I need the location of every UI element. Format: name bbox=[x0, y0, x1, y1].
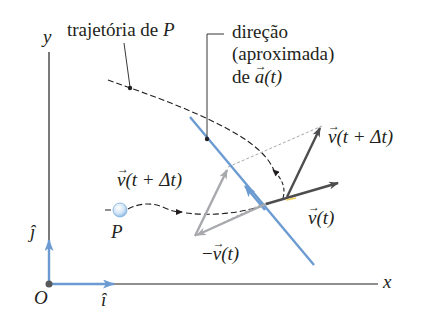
accel-direction-label-3: de a(t) bbox=[232, 67, 282, 87]
v-t-symbol: v bbox=[308, 208, 316, 228]
y-axis-label: y bbox=[43, 27, 51, 47]
v-t-dt-vector bbox=[287, 128, 320, 197]
trajectory-label-var: P bbox=[163, 19, 175, 40]
construction-line-1 bbox=[228, 126, 322, 167]
accel-vector-symbol: a bbox=[255, 67, 265, 87]
accel-label-arg: (t) bbox=[264, 66, 282, 87]
x-axis-label: x bbox=[383, 272, 391, 292]
v-t-vector bbox=[266, 183, 338, 204]
accel-direction-label-1: direção bbox=[232, 22, 288, 42]
acceleration-diagram bbox=[0, 0, 442, 335]
accel-label-prefix: de bbox=[232, 66, 255, 87]
unit-j-label: ĵ bbox=[30, 222, 35, 242]
neg-v-t-prefix: − bbox=[202, 243, 213, 264]
v-t-dt-symbol: v bbox=[328, 127, 336, 147]
origin-label: O bbox=[34, 288, 48, 308]
particle-label: P bbox=[111, 222, 123, 242]
accel-leader bbox=[207, 34, 224, 138]
trajectory-upper bbox=[108, 80, 276, 176]
trajectory-leader bbox=[124, 43, 130, 87]
trajectory-dot bbox=[128, 86, 132, 90]
v-t-dt-copy-label: v(t + Δt) bbox=[117, 170, 182, 190]
rotation-arc bbox=[273, 170, 284, 198]
v-t-dt-copy-symbol: v bbox=[117, 170, 125, 190]
particle-p bbox=[113, 203, 127, 217]
trajectory-label: trajetória de P bbox=[67, 20, 175, 40]
v-t-label: v(t) bbox=[308, 208, 334, 228]
v-t-dt-copy-vector bbox=[195, 170, 227, 236]
v-t-dt-label: v(t + Δt) bbox=[328, 127, 393, 147]
neg-v-t-symbol: v bbox=[213, 244, 221, 264]
accel-direction-label-2: (aproximada) bbox=[232, 44, 334, 64]
neg-v-t-label: −v(t) bbox=[202, 244, 239, 264]
v-t-dt-arg: (t + Δt) bbox=[336, 126, 393, 147]
unit-i-label: î bbox=[101, 290, 106, 310]
trajectory-label-text: trajetória de bbox=[67, 19, 163, 40]
v-t-dt-copy-arg: (t + Δt) bbox=[125, 169, 182, 190]
accel-dot bbox=[205, 137, 209, 141]
